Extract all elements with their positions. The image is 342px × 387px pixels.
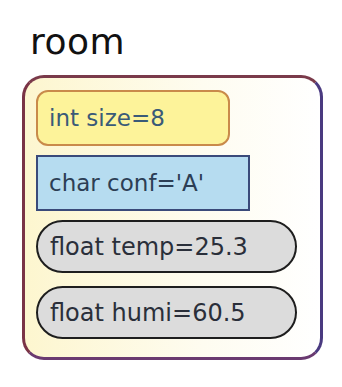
field-label: float temp=25.3: [50, 233, 248, 261]
field-int-size: int size=8: [36, 90, 230, 146]
field-label: float humi=60.5: [50, 299, 246, 327]
field-float-temp: float temp=25.3: [36, 220, 297, 273]
field-label: char conf='A': [49, 170, 204, 196]
field-char-conf: char conf='A': [36, 155, 250, 211]
struct-title: room: [30, 22, 125, 62]
field-label: int size=8: [49, 105, 165, 131]
field-float-humi: float humi=60.5: [36, 286, 297, 339]
